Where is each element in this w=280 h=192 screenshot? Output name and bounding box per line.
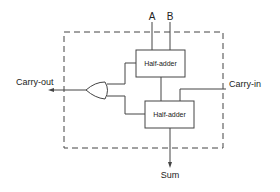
top-carry-wire — [107, 63, 136, 84]
sum-arrow-icon — [168, 162, 172, 168]
or-gate-icon — [86, 82, 108, 99]
half-adder-bottom-label: Half-adder — [153, 111, 186, 118]
full-adder-diagram: A B Half-adder Half-adder Carry-out Carr… — [0, 0, 280, 192]
carry-out-label: Carry-out — [16, 77, 54, 87]
input-b-label: B — [167, 11, 174, 22]
sum-label: Sum — [161, 170, 180, 180]
carry-in-label: Carry-in — [229, 79, 261, 89]
carry-out-arrow-icon — [48, 88, 54, 92]
input-a-label: A — [149, 11, 156, 22]
bottom-carry-wire — [107, 96, 145, 114]
half-adder-top-label: Half-adder — [144, 60, 177, 67]
